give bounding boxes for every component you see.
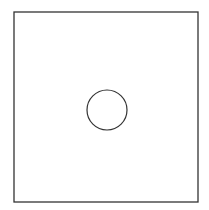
center-circle [87, 90, 127, 130]
diagram-canvas [0, 0, 209, 210]
square-outline [14, 12, 198, 202]
